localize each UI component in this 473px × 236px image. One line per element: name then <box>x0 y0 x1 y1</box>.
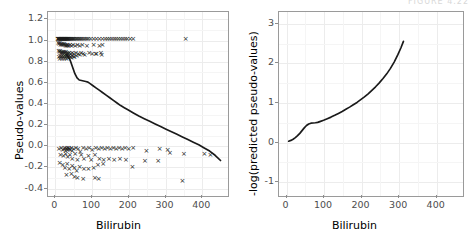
x-tick-label: 400 <box>416 200 456 210</box>
y-tick-label: 0.6 <box>17 77 43 87</box>
y-tick-mark <box>44 82 47 83</box>
scatter-point: × <box>122 157 129 164</box>
y-tick-mark <box>44 188 47 189</box>
scatter-point: × <box>156 146 163 153</box>
x-tick-mark <box>286 195 287 198</box>
scatter-point: × <box>100 161 107 168</box>
scatter-point: × <box>71 54 78 61</box>
y-tick-label: 1.0 <box>17 35 43 45</box>
y-tick-mark <box>44 103 47 104</box>
y-tick-label: -0.4 <box>17 183 43 193</box>
y-tick-mark <box>275 102 278 103</box>
y-tick-label: 0.8 <box>17 56 43 66</box>
y-tick-mark <box>44 124 47 125</box>
scatter-point: × <box>130 36 137 43</box>
figure-root: FIGURE 4.22 Pseudo-values Bilirubin ××××… <box>0 0 473 236</box>
panel-pseudo-values: Pseudo-values Bilirubin ××××××××××××××××… <box>0 0 237 236</box>
x-tick-mark <box>323 195 324 198</box>
x-tick-label: 100 <box>71 200 111 210</box>
y-tick-label: 3 <box>248 18 274 28</box>
scatter-point: × <box>95 176 102 183</box>
left-data-layer: ××××××××××××××××××××××××××××××××××××××××… <box>48 12 228 196</box>
scatter-point: × <box>81 52 88 59</box>
scatter-point: × <box>142 158 149 165</box>
right-line-curve <box>279 12 463 196</box>
x-tick-mark <box>398 195 399 198</box>
scatter-point: × <box>167 150 174 157</box>
panel-predicted: -log(predicted pseudo-values) Bilirubin … <box>236 0 473 236</box>
x-tick-mark <box>91 195 92 198</box>
y-tick-mark <box>275 181 278 182</box>
y-tick-label: 0.4 <box>17 98 43 108</box>
scatter-point: × <box>182 36 189 43</box>
y-tick-label: 2 <box>248 57 274 67</box>
y-tick-mark <box>44 61 47 62</box>
x-tick-mark <box>436 195 437 198</box>
y-tick-label: 1.2 <box>17 13 43 23</box>
x-tick-label: 0 <box>34 200 74 210</box>
y-tick-label: -0.2 <box>17 161 43 171</box>
scatter-point: × <box>80 176 87 183</box>
scatter-point: × <box>179 178 186 185</box>
scatter-point: × <box>130 145 137 152</box>
y-tick-mark <box>44 18 47 19</box>
left-plot-area: ××××××××××××××××××××××××××××××××××××××××… <box>47 11 229 197</box>
x-tick-label: 200 <box>341 200 381 210</box>
scatter-point: × <box>129 164 136 171</box>
y-tick-mark <box>44 166 47 167</box>
x-tick-label: 300 <box>145 200 185 210</box>
scatter-point: × <box>98 52 105 59</box>
x-tick-label: 200 <box>108 200 148 210</box>
x-tick-label: 100 <box>303 200 343 210</box>
scatter-point: × <box>180 151 187 158</box>
y-tick-label: 0.2 <box>17 119 43 129</box>
scatter-point: × <box>143 148 150 155</box>
y-tick-label: -1 <box>248 176 274 186</box>
x-tick-mark <box>165 195 166 198</box>
x-tick-mark <box>128 195 129 198</box>
left-x-axis-title: Bilirubin <box>0 219 237 232</box>
y-tick-mark <box>275 62 278 63</box>
y-tick-label: 0 <box>248 137 274 147</box>
x-tick-mark <box>361 195 362 198</box>
y-tick-label: 1 <box>248 97 274 107</box>
x-tick-label: 0 <box>266 200 306 210</box>
x-tick-label: 400 <box>181 200 221 210</box>
scatter-point: × <box>207 152 214 159</box>
y-tick-mark <box>275 23 278 24</box>
right-data-layer <box>279 12 463 196</box>
y-tick-mark <box>44 40 47 41</box>
x-tick-mark <box>201 195 202 198</box>
y-tick-label: 0.0 <box>17 140 43 150</box>
right-plot-area <box>278 11 464 197</box>
right-y-axis-title: -log(predicted pseudo-values) <box>247 31 260 196</box>
scatter-point: × <box>155 158 162 165</box>
x-tick-label: 300 <box>378 200 418 210</box>
y-tick-mark <box>275 142 278 143</box>
x-tick-mark <box>54 195 55 198</box>
y-tick-mark <box>44 145 47 146</box>
right-x-axis-title: Bilirubin <box>236 219 473 232</box>
